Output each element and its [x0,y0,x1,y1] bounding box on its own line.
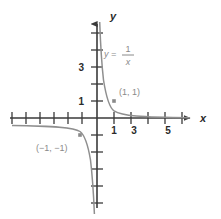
curve-negative-branch [12,126,94,215]
equation-numerator: 1 [125,44,130,54]
x-tick-label-3: 3 [131,125,137,136]
plot-canvas: y x 1 3 5 1 3 y = 1 x (1, 1) (−1, −1) [0,0,221,219]
curve-positive-branch [100,22,190,118]
equation-annotation: y = 1 x [103,44,134,67]
y-tick-label-3: 3 [78,62,84,73]
point-marker-positive [112,99,116,103]
y-tick-label-1: 1 [78,96,84,107]
point-label-positive: (1, 1) [119,87,140,97]
x-axis-label: x [199,112,207,124]
equation-denominator: x [125,57,131,67]
x-tick-label-1: 1 [111,125,117,136]
graph-figure: y x 1 3 5 1 3 y = 1 x (1, 1) (−1, −1) [0,0,221,219]
y-axis-label: y [109,10,117,22]
equation-lhs: y = [103,49,116,59]
point-marker-negative [78,133,82,137]
point-label-negative: (−1, −1) [36,143,68,153]
x-tick-label-5: 5 [165,125,171,136]
